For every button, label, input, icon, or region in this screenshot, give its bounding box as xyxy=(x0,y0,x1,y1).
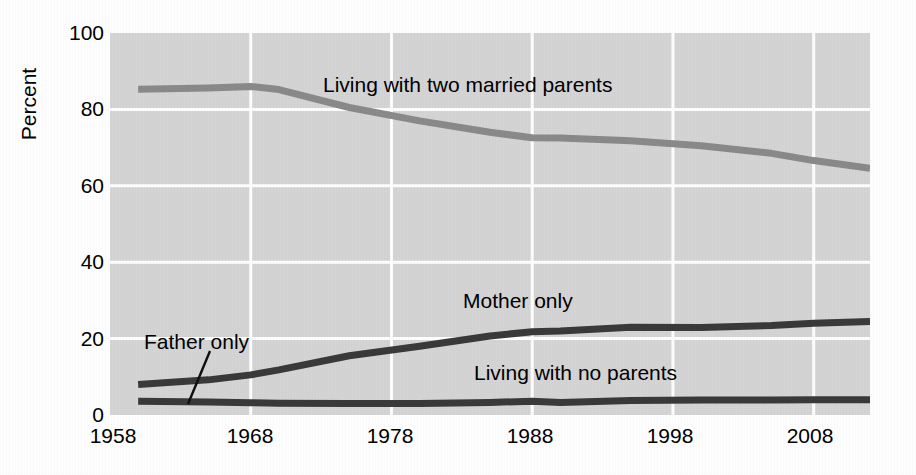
chart-figure: Percent 100 80 60 40 20 0 1958 1968 1978… xyxy=(0,0,916,475)
annotation-father-only: Father only xyxy=(144,331,249,353)
x-tick-label: 1998 xyxy=(625,424,715,448)
annotation-living-with-no-parents: Living with no parents xyxy=(474,362,677,384)
x-tick-label: 1988 xyxy=(485,424,575,448)
x-tick-label: 1968 xyxy=(205,424,295,448)
x-tick-label: 1958 xyxy=(68,424,158,448)
x-tick-label: 2008 xyxy=(765,424,855,448)
series-line xyxy=(138,400,870,404)
annotation-mother-only: Mother only xyxy=(463,290,573,312)
annotation-living-with-two-married-parents: Living with two married parents xyxy=(323,74,612,96)
x-tick-label: 1978 xyxy=(345,424,435,448)
